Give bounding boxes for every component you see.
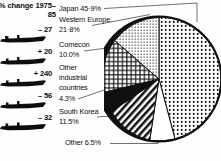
cargo-ship-icon: [0, 120, 46, 132]
fleet-row: + 20: [0, 47, 56, 68]
pie-label-comecon: Comecon 10.0%: [59, 40, 90, 60]
fleet-row: – 32: [0, 113, 56, 134]
cargo-ship-icon: [0, 32, 46, 44]
infographic-root: % change 1975–85 – 27 + 20 + 240 – 56: [0, 0, 221, 161]
fleet-row: + 240: [0, 69, 56, 90]
pie-chart-svg: [104, 8, 221, 161]
pie-label-south-korea: South Korea 11.5%: [59, 107, 98, 127]
pie-label-western-europe: Western Europe 21·8%: [59, 15, 110, 35]
column-header: % change 1975–85: [0, 1, 56, 20]
fleet-row: – 27: [0, 25, 56, 46]
pie-chart: [104, 8, 221, 161]
pie-label-other: Other 6.5%: [65, 138, 101, 148]
pie-label-other-industrial: Other industrial countries 4.3%: [59, 63, 88, 104]
pie-label-japan: Japan 45·9%: [59, 4, 101, 14]
fleet-row: – 56: [0, 91, 56, 112]
cargo-ship-icon: [0, 54, 46, 66]
cargo-ship-icon: [0, 98, 46, 110]
cargo-ship-icon: [0, 76, 46, 88]
fleet-change-column: % change 1975–85 – 27 + 20 + 240 – 56: [0, 0, 56, 161]
